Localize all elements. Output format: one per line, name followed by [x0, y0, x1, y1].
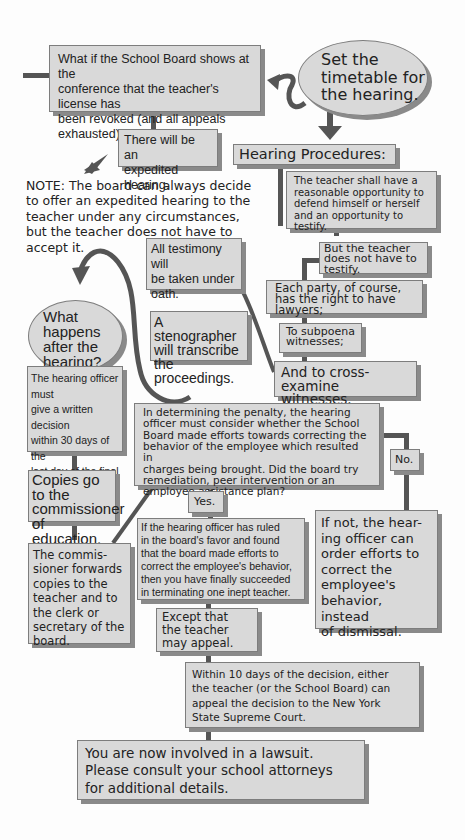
testimony-oath-box: All testimony will be taken under oath.	[146, 238, 242, 290]
expedited-box: There will be an expedited hearing.	[118, 129, 218, 167]
lawyers-box: Each party, of course, has the right to …	[266, 280, 423, 314]
what-happens-ellipse: What happens after the hearing?	[28, 300, 123, 372]
hearing-procedures-box: Hearing Procedures:	[233, 144, 396, 165]
connector-left-stub	[23, 73, 49, 78]
commissioner-forwards-box: The commis- sioner forwards copies to th…	[28, 543, 131, 644]
testimony-oath-text: All testimony will be taken under oath.	[151, 242, 237, 302]
lawsuit-box: You are now involved in a lawsuit. Pleas…	[77, 740, 365, 800]
cross-examine-text: And to cross-examine witnesses.	[281, 366, 410, 407]
if-not-text: If not, the hear- ing officer can order …	[321, 515, 432, 640]
copies-text: Copies go to the commissioner of educati…	[32, 473, 112, 546]
lawsuit-text: You are now involved in a lawsuit. Pleas…	[85, 745, 357, 797]
no-label-box: No.	[390, 449, 420, 471]
hearing-procedures-text: Hearing Procedures:	[239, 146, 390, 163]
set-timetable-text: Set the timetable for the hearing.	[321, 51, 427, 104]
may-appeal-box: Except that the teacher may appeal.	[156, 608, 258, 652]
lawyers-text: Each party, of course, has the right to …	[275, 283, 414, 316]
may-appeal-text: Except that the teacher may appeal.	[162, 611, 252, 650]
cross-examine-box: And to cross-examine witnesses.	[274, 361, 417, 397]
if-not-box: If not, the hear- ing officer can order …	[315, 510, 438, 629]
written-decision-box: The hearing officer must give a written …	[27, 366, 123, 452]
copies-box: Copies go to the commissioner of educati…	[28, 470, 116, 522]
what-happens-text: What happens after the hearing?	[43, 309, 122, 369]
defend-text: The teacher shall have a reasonable oppo…	[294, 175, 429, 233]
revoked-question-box: What if the School Board shows at the co…	[49, 45, 261, 112]
within-10-days-text: Within 10 days of the decision, either t…	[192, 667, 413, 725]
ruled-favor-text: If the hearing officer has ruled in the …	[141, 521, 301, 598]
set-timetable-ellipse: Set the timetable for the hearing.	[298, 40, 428, 116]
ruled-favor-box: If the hearing officer has ruled in the …	[137, 518, 305, 600]
subpoena-text: To subpoena witnesses;	[286, 327, 355, 348]
connector-nottestify-lawyers-h	[302, 258, 320, 263]
not-testify-box: But the teacher does not have to testify…	[319, 242, 428, 274]
defend-box: The teacher shall have a reasonable oppo…	[286, 171, 437, 229]
penalty-text: In determining the penalty, the hearing …	[143, 407, 371, 498]
no-label: No.	[395, 453, 415, 466]
within-10-days-box: Within 10 days of the decision, either t…	[185, 662, 420, 728]
connector-nottestify-lawyers	[302, 260, 307, 280]
connector-procedures-defend	[278, 166, 283, 226]
stenographer-box: A stenographer will transcribe the proce…	[150, 311, 248, 361]
stenographer-text: A stenographer will transcribe the proce…	[154, 315, 244, 385]
subpoena-box: To subpoena witnesses;	[279, 323, 362, 353]
yes-label: Yes.	[194, 495, 218, 508]
yes-label-box: Yes.	[188, 491, 224, 513]
not-testify-text: But the teacher does not have to testify…	[324, 244, 423, 275]
commissioner-forwards-text: The commis- sioner forwards copies to th…	[33, 548, 126, 649]
penalty-box: In determining the penalty, the hearing …	[134, 403, 380, 486]
